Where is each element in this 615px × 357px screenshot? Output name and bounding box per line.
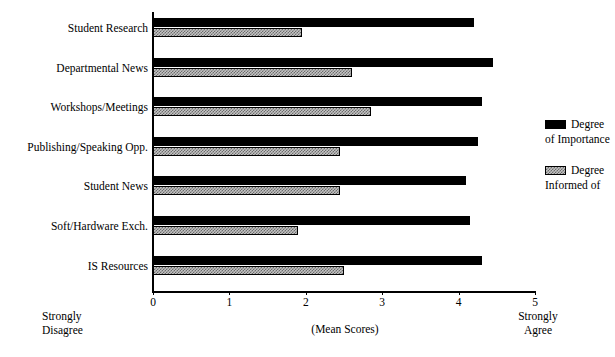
category-label: Publishing/Speaking Opp. <box>0 142 148 154</box>
axis-caption-left: Strongly Disagree <box>42 310 83 337</box>
category-row: Departmental News <box>0 58 615 98</box>
bar-informed <box>153 68 352 77</box>
category-label: IS Resources <box>0 261 148 273</box>
tick-mark <box>229 291 230 295</box>
plot-area: Student ResearchDepartmental NewsWorksho… <box>153 12 536 292</box>
x-tick-label: 2 <box>286 296 326 309</box>
legend-entry: DegreeInformed of <box>545 164 615 192</box>
tick-mark <box>382 291 383 295</box>
bar-importance <box>153 176 466 185</box>
legend-swatch-black-icon <box>545 120 566 129</box>
x-tick-label: 3 <box>362 296 402 309</box>
category-label: Soft/Hardware Exch. <box>0 221 148 233</box>
bar-importance <box>153 137 478 146</box>
category-row: Student News <box>0 176 615 216</box>
bar-informed <box>153 28 302 37</box>
axis-caption-left-line1: Strongly <box>42 310 83 324</box>
tick-mark <box>153 291 154 295</box>
bar-informed <box>153 266 344 275</box>
bar-informed <box>153 107 371 116</box>
axis-caption-left-line2: Disagree <box>42 324 83 338</box>
legend-swatch-hatch-icon <box>545 166 566 175</box>
legend-label-line1: Degree <box>571 164 604 177</box>
bar-chart: Student ResearchDepartmental NewsWorksho… <box>0 0 615 357</box>
category-label: Workshops/Meetings <box>0 102 148 114</box>
tick-mark <box>306 291 307 295</box>
bar-informed <box>153 226 298 235</box>
x-tick-label: 4 <box>439 296 479 309</box>
category-label: Student Research <box>0 23 148 35</box>
axis-caption-right-line1: Strongly <box>498 310 578 324</box>
bar-informed <box>153 147 340 156</box>
axis-caption-right: Strongly Agree <box>498 310 578 337</box>
x-tick-label: 1 <box>209 296 249 309</box>
category-row: Student Research <box>0 18 615 58</box>
category-row: Publishing/Speaking Opp. <box>0 137 615 177</box>
x-tick-label: 0 <box>133 296 173 309</box>
chart-legend: Degreeof ImportanceDegreeInformed of <box>545 118 615 210</box>
bar-informed <box>153 186 340 195</box>
bar-importance <box>153 58 493 67</box>
bar-importance <box>153 18 474 27</box>
legend-label-line2: Informed of <box>545 179 615 192</box>
category-row: Soft/Hardware Exch. <box>0 216 615 256</box>
category-row: Workshops/Meetings <box>0 97 615 137</box>
legend-label-line1: Degree <box>571 118 604 131</box>
x-tick-label: 5 <box>515 296 555 309</box>
legend-label-line2: of Importance <box>545 133 615 146</box>
category-label: Student News <box>0 181 148 193</box>
tick-mark <box>535 291 536 295</box>
category-row: IS Resources <box>0 256 615 296</box>
bar-importance <box>153 256 482 265</box>
axis-caption-right-line2: Agree <box>498 324 578 338</box>
x-axis-label: (Mean Scores) <box>225 323 465 337</box>
bar-importance <box>153 97 482 106</box>
bar-importance <box>153 216 470 225</box>
tick-mark <box>459 291 460 295</box>
legend-entry: Degreeof Importance <box>545 118 615 146</box>
category-label: Departmental News <box>0 63 148 75</box>
